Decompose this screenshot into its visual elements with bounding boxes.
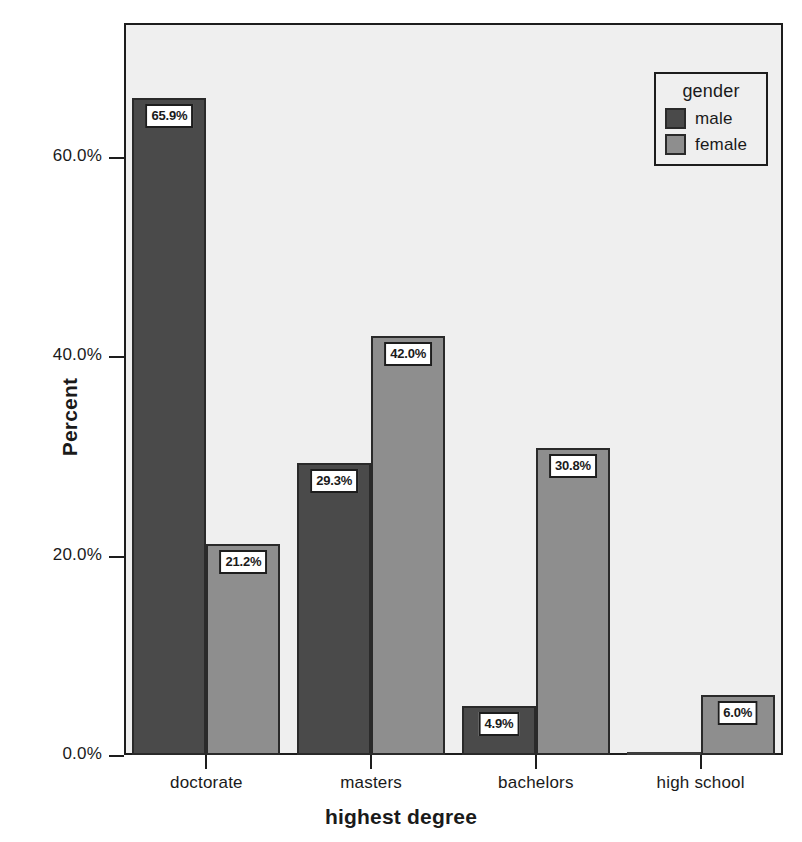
legend-swatch-female — [665, 134, 686, 155]
x-axis-title: highest degree — [0, 805, 802, 829]
y-tick: 60.0% — [0, 157, 124, 158]
bar-masters-female — [371, 336, 445, 755]
bar-chart: Percent 0.0%20.0%40.0%60.0% 65.9%21.2%29… — [0, 0, 802, 842]
legend-item-female: female — [665, 134, 757, 155]
y-tick-label: 40.0% — [53, 345, 102, 365]
y-tick-mark — [109, 157, 124, 159]
x-tick-label: high school — [657, 773, 745, 793]
x-tick-mark — [700, 755, 702, 769]
y-tick: 0.0% — [0, 755, 124, 756]
bar-doctorate-male — [132, 98, 206, 755]
legend: gender malefemale — [654, 72, 768, 166]
x-tick-mark — [535, 755, 537, 769]
legend-item-male: male — [665, 108, 757, 129]
y-tick-mark — [109, 556, 124, 558]
x-tick-mark — [370, 755, 372, 769]
bar-value-label: 65.9% — [145, 104, 193, 128]
legend-item-label: female — [695, 135, 747, 155]
x-tick-label: masters — [340, 773, 402, 793]
y-tick-mark — [109, 755, 124, 757]
legend-entries: malefemale — [665, 108, 757, 155]
bar-value-label: 29.3% — [310, 469, 358, 493]
bar-bachelors-female — [536, 448, 610, 755]
y-tick-label: 0.0% — [62, 744, 102, 764]
x-tick-label: bachelors — [498, 773, 574, 793]
bar-doctorate-female — [206, 544, 280, 755]
bar-value-label: 30.8% — [549, 454, 597, 478]
bar-value-label: 4.9% — [478, 712, 519, 736]
y-tick-mark — [109, 356, 124, 358]
y-tick-label: 20.0% — [53, 545, 102, 565]
bar-value-label: 6.0% — [717, 701, 758, 725]
y-tick: 40.0% — [0, 356, 124, 357]
bar-value-label: 21.2% — [219, 550, 267, 574]
x-tick-label: doctorate — [170, 773, 243, 793]
bar-value-label: 42.0% — [384, 342, 432, 366]
y-tick: 20.0% — [0, 556, 124, 557]
legend-title: gender — [665, 81, 757, 102]
x-tick-mark — [205, 755, 207, 769]
bar-high-school-male — [627, 752, 701, 755]
bar-masters-male — [297, 463, 371, 755]
y-tick-label: 60.0% — [53, 146, 102, 166]
legend-item-label: male — [695, 109, 733, 129]
legend-swatch-male — [665, 108, 686, 129]
